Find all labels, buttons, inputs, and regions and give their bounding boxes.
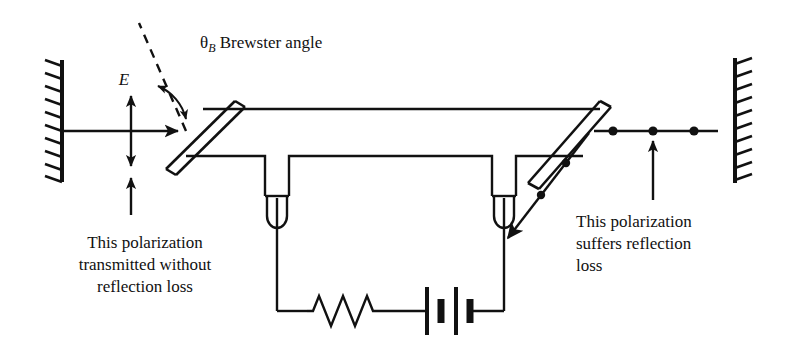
left-note: This polarization transmitted without re… [79,233,212,296]
resistor-zigzag [307,296,379,326]
pol-dot-2 [648,126,657,135]
right-note: This polarization suffers reflection los… [576,212,692,275]
pol-dot-ray-1 [562,159,570,167]
electrode-right [492,196,516,311]
pol-dot-1 [608,126,617,135]
brewster-window-right [528,101,611,189]
pol-dot-ray-2 [537,191,545,199]
angle-arc-double-arrow [158,86,186,119]
pol-dot-3 [689,126,698,135]
brewster-angle-label: θB Brewster angle [200,33,322,55]
e-field-label: E [118,70,130,89]
left-note-line2: transmitted without [79,255,212,274]
right-note-line1: This polarization [576,212,692,231]
figure-canvas: E θB Brewster angle [0,0,785,356]
electrode-left [265,196,289,311]
diagram-svg: E θB Brewster angle [0,0,785,356]
battery-two-cell [427,287,470,335]
left-note-line1: This polarization [87,233,203,252]
output-beam-right [594,126,718,135]
svg-text:θB Brewster angle: θB Brewster angle [200,33,322,55]
left-note-line3: reflection loss [97,277,193,296]
right-note-line2: suffers reflection [576,234,692,253]
power-circuit [277,287,504,335]
theta-symbol: θ [200,33,208,52]
left-mirror [45,60,62,182]
normal-dashed-line [139,23,186,131]
right-mirror [735,58,752,183]
brewster-angle-words: Brewster angle [220,33,322,52]
right-note-line3: loss [576,256,602,275]
laser-tube-envelope [186,109,600,196]
